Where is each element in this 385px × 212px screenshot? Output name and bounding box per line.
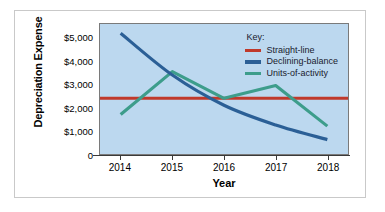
x-tick-label: 2014: [100, 162, 140, 173]
legend-swatch-straight-line: [245, 49, 261, 53]
plot-area: Key: Straight-line Declining-balance Uni…: [99, 23, 349, 155]
x-tick-label: 2015: [152, 162, 192, 173]
legend-label-declining-balance: Declining-balance: [266, 56, 338, 68]
y-tick-label: $2,000: [41, 102, 93, 113]
x-tick-label: 2017: [256, 162, 296, 173]
y-tick-label: $1,000: [41, 126, 93, 137]
chart-figure: Depreciation Expense 0$1,000$2,000$3,000…: [14, 10, 366, 198]
legend-title: Key:: [246, 32, 338, 44]
legend-label-straight-line: Straight-line: [266, 45, 314, 57]
x-tick-mark: [224, 155, 225, 160]
x-tick-mark: [172, 155, 173, 160]
chart-legend: Key: Straight-line Declining-balance Uni…: [245, 32, 338, 79]
x-tick-mark: [276, 155, 277, 160]
y-tick-label: $3,000: [41, 79, 93, 90]
legend-item-units-of-activity: Units-of-activity: [245, 68, 338, 80]
legend-item-declining-balance: Declining-balance: [245, 56, 338, 68]
y-axis-tick-labels: 0$1,000$2,000$3,000$4,000$5,000: [41, 11, 93, 199]
y-tick-label: $4,000: [41, 55, 93, 66]
x-axis-line: [93, 155, 350, 156]
x-tick-mark: [328, 155, 329, 160]
legend-label-units-of-activity: Units-of-activity: [266, 68, 328, 80]
legend-swatch-units-of-activity: [245, 72, 261, 76]
x-tick-mark: [120, 155, 121, 160]
x-tick-label: 2018: [308, 162, 348, 173]
x-tick-label: 2016: [204, 162, 244, 173]
legend-item-straight-line: Straight-line: [245, 45, 338, 57]
legend-swatch-declining-balance: [245, 60, 261, 64]
y-tick-label: 0: [41, 150, 93, 161]
y-tick-label: $5,000: [41, 32, 93, 43]
x-axis-title: Year: [99, 177, 349, 189]
